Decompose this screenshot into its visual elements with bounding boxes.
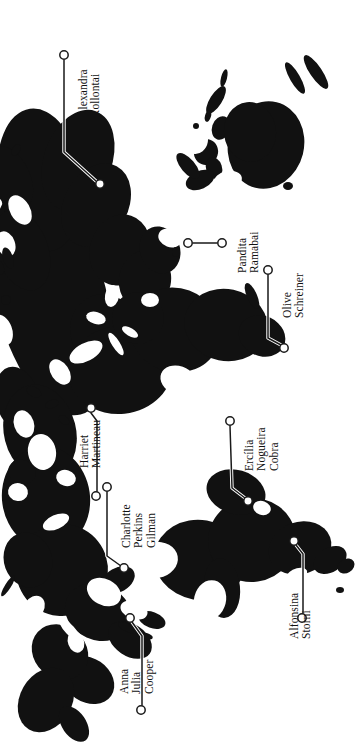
blob-kamchatka — [282, 60, 309, 96]
island-falkland — [336, 587, 344, 593]
island-tasmania — [283, 182, 293, 190]
anchor-marker-charlotte-perkins-gilman[interactable] — [103, 483, 111, 491]
pin-marker-harriet-martineau[interactable] — [92, 492, 100, 500]
island-iceland — [1, 295, 11, 305]
anchor-marker-harriet-martineau[interactable] — [87, 404, 95, 412]
leader-line-halo-harriet-martineau — [91, 413, 97, 491]
pin-marker-anna-julia-cooper[interactable] — [137, 706, 145, 714]
island-sri-lanka — [172, 247, 180, 257]
blob-japan — [202, 83, 229, 116]
callout-pandita-ramabai[interactable] — [184, 239, 226, 247]
island-hainan — [193, 123, 199, 129]
anchor-marker-pandita-ramabai[interactable] — [218, 239, 226, 247]
pin-marker-olive-schreiner[interactable] — [280, 344, 288, 352]
anchor-marker-olive-schreiner[interactable] — [264, 266, 272, 274]
pin-marker-pandita-ramabai[interactable] — [184, 239, 192, 247]
leader-line-halo-charlotte-perkins-gilman — [107, 492, 121, 566]
landmass-group — [0, 52, 357, 747]
blob-newzealand — [300, 52, 332, 92]
anchor-marker-anna-julia-cooper[interactable] — [126, 614, 134, 622]
cut-interior-white-4 — [141, 293, 159, 307]
pin-marker-alfonsina-storni[interactable] — [298, 614, 306, 622]
pin-marker-ercilia-nogueira-cobra[interactable] — [244, 497, 252, 505]
anchor-marker-alfonsina-storni[interactable] — [290, 537, 298, 545]
leader-line-charlotte-perkins-gilman — [107, 492, 121, 566]
pin-marker-charlotte-perkins-gilman[interactable] — [120, 564, 128, 572]
island-sakhalin — [219, 69, 229, 88]
world-map-svg — [0, 0, 364, 756]
anchor-marker-alexandra-kollontai[interactable] — [60, 51, 68, 59]
anchor-marker-ercilia-nogueira-cobra[interactable] — [226, 417, 234, 425]
pin-marker-alexandra-kollontai[interactable] — [96, 180, 104, 188]
map-figure: AlexandraKollontaiPanditaRamabaiOliveSch… — [0, 0, 364, 756]
island-alaskan-chain — [0, 574, 17, 598]
callout-harriet-martineau[interactable] — [87, 404, 100, 500]
